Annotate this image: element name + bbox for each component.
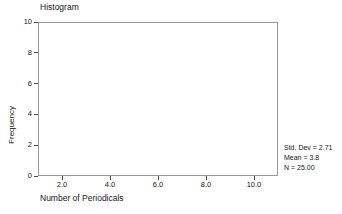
x-axis-tick-text: 2.0 — [42, 180, 82, 190]
x-axis-tick-text: 4.0 — [90, 180, 130, 190]
histogram-chart: Histogram 0246810 2.04.06.08.010.0 Frequ… — [0, 0, 342, 214]
x-axis-tick-text: 6.0 — [138, 180, 178, 190]
y-axis-tick-text: 0 — [6, 172, 32, 180]
y-axis-tick-label: 8 — [4, 49, 32, 57]
n-label: N = 25.00 — [284, 163, 342, 173]
statistics-annotation: Std. Dev = 2.71 Mean = 3.8 N = 25.00 — [284, 143, 342, 173]
x-axis-tick-label: 2.0 — [42, 180, 82, 190]
y-axis-tick-text: 10 — [6, 18, 32, 26]
y-axis-tick — [34, 145, 38, 146]
y-axis-tick-label: 10 — [4, 18, 32, 26]
y-axis-tick — [34, 114, 38, 115]
std-dev-label: Std. Dev = 2.71 — [284, 143, 342, 153]
mean-label: Mean = 3.8 — [284, 153, 342, 163]
y-axis-tick — [34, 52, 38, 53]
y-axis-tick — [34, 176, 38, 177]
x-axis-tick-label: 10.0 — [234, 180, 274, 190]
bars-layer — [39, 23, 277, 175]
x-axis-tick-text: 8.0 — [186, 180, 226, 190]
x-axis-tick-text: 10.0 — [234, 180, 274, 190]
y-axis-label: Frequency — [7, 85, 17, 165]
x-axis-tick-label: 8.0 — [186, 180, 226, 190]
plot-area — [38, 22, 278, 176]
y-axis-tick — [34, 83, 38, 84]
y-axis-tick-label: 0 — [4, 172, 32, 180]
x-axis-label: Number of Periodicals — [40, 193, 124, 204]
y-axis-tick-text: 8 — [6, 49, 32, 57]
chart-title: Histogram — [40, 2, 79, 13]
x-axis-tick-label: 4.0 — [90, 180, 130, 190]
y-axis-tick — [34, 22, 38, 23]
x-axis-tick-label: 6.0 — [138, 180, 178, 190]
